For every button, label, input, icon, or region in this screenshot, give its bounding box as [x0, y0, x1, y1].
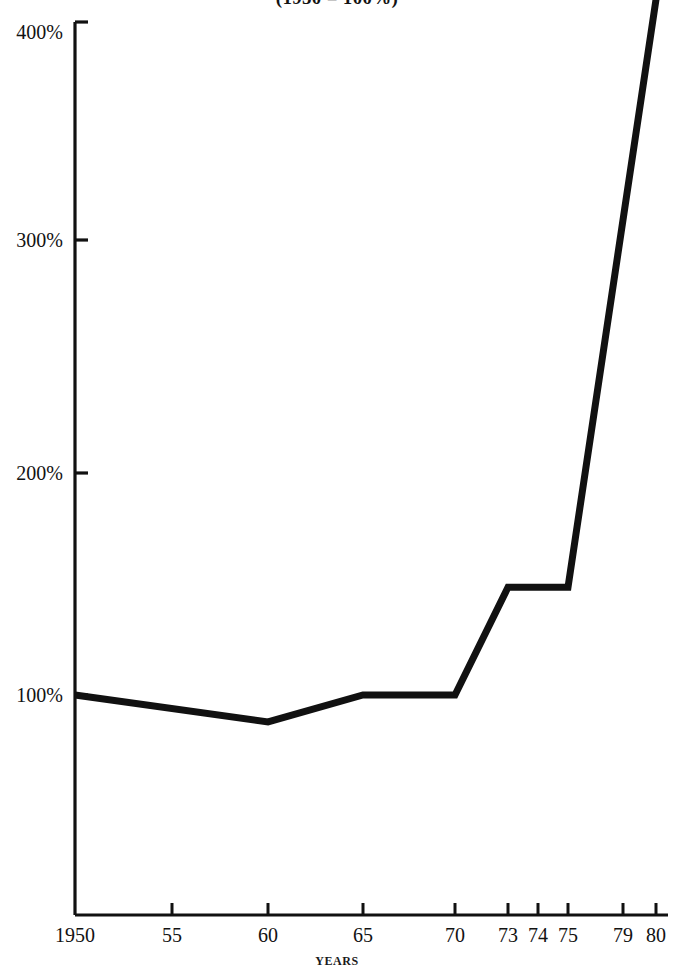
data-series-line: [75, 0, 656, 722]
chart-figure: (1950 = 100%) 400% 300% 200% 100% 1950 5…: [0, 0, 674, 979]
plot-area: [0, 0, 674, 979]
